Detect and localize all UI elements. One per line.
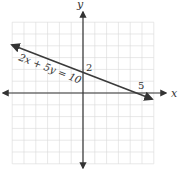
- x-intercept-label: 5: [138, 80, 144, 91]
- y-intercept-label: 2: [86, 62, 92, 73]
- x-axis-label: x: [171, 87, 178, 100]
- equation-line: [12, 45, 152, 99]
- coordinate-plane: x y 2 5 2x + 5y = 10: [0, 0, 179, 171]
- y-axis-label: y: [76, 0, 84, 11]
